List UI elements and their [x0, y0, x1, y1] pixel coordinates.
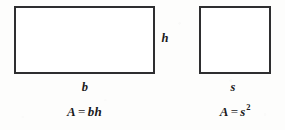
square-area-exponent: 2	[246, 102, 251, 112]
area-formulas-figure: h b A=bh s A=s2	[0, 0, 285, 130]
rectangle-equals-sign: =	[76, 104, 88, 119]
square-area-formula: A=s2	[193, 105, 277, 118]
square-side-label: s	[214, 81, 252, 94]
rectangle-shape	[14, 6, 155, 74]
rectangle-area-expression: bh	[88, 104, 102, 119]
square-area-base: s	[240, 104, 245, 119]
rectangle-base-label: b	[66, 81, 104, 94]
square-area-symbol: A	[220, 104, 229, 119]
square-equals-sign: =	[229, 104, 241, 119]
rectangle-height-label: h	[158, 32, 172, 45]
rectangle-area-formula: A=bh	[28, 105, 141, 118]
square-shape	[199, 6, 271, 74]
rectangle-area-symbol: A	[67, 104, 76, 119]
